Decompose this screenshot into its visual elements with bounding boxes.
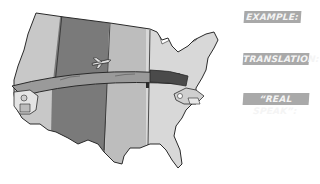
translation-label: TRANSLATION: [243, 53, 310, 65]
real-speak-label: “REAL SPEAK”: [243, 93, 310, 105]
zone-mountain [50, 0, 110, 184]
west-coast-character-icon [14, 90, 38, 114]
us-map-illustration [0, 0, 320, 184]
example-label: EXAMPLE: [244, 11, 302, 23]
